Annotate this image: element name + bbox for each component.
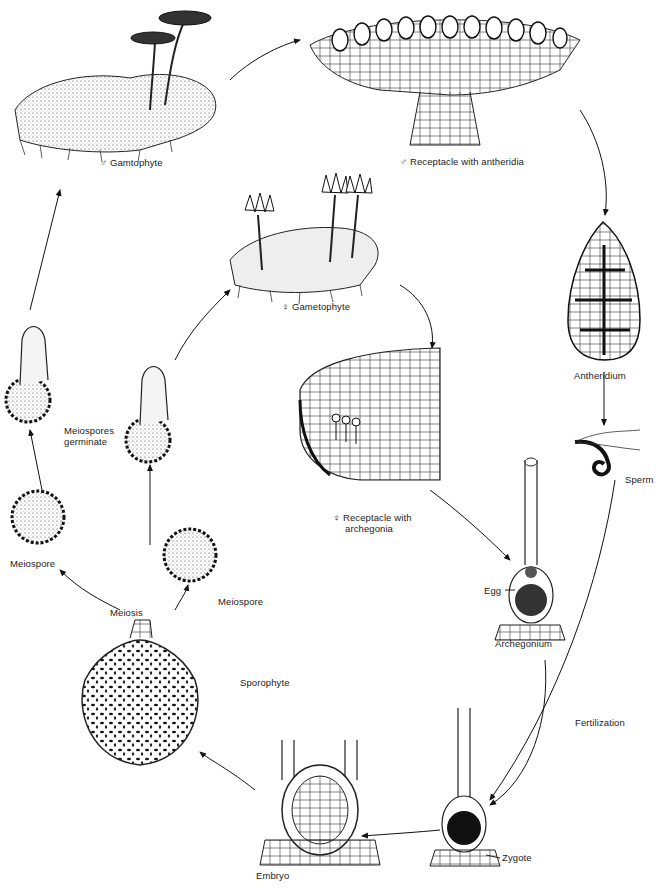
label-zygote: Zygote — [502, 852, 532, 863]
label-female-gametophyte: ♀ Gametophyte — [282, 301, 350, 312]
sporophyte-illustration — [82, 620, 198, 765]
label-female-receptacle-line1: ♀ Receptacle with — [333, 512, 412, 523]
meiospore-right-illustration — [164, 529, 216, 581]
sperm-illustration — [575, 430, 640, 474]
label-meiosis: Meiosis — [110, 607, 143, 618]
label-meiospores-germinate-line1: Meiospores — [64, 425, 114, 436]
label-archegonium: Archegonium — [495, 638, 552, 649]
label-male-gametophyte: ♂ Gamtophyte — [100, 157, 163, 168]
label-meiospore-left: Meiospore — [10, 558, 55, 569]
female-receptacle-illustration — [300, 348, 440, 480]
label-fertilization: Fertilization — [575, 717, 625, 728]
label-meiospore-right: Meiospore — [218, 596, 263, 607]
male-receptacle-illustration — [310, 16, 580, 145]
male-gametophyte-illustration — [15, 11, 216, 162]
archegonium-illustration — [495, 458, 565, 640]
label-female-receptacle-line2: archegonia — [345, 523, 393, 534]
meiospore-left-illustration — [12, 491, 64, 543]
label-egg: Egg — [484, 585, 501, 596]
label-embryo: Embryo — [256, 870, 289, 881]
embryo-illustration — [260, 740, 380, 865]
label-meiospores-germinate-line2: germinate — [64, 436, 107, 447]
life-cycle-diagram: ♂ Gamtophyte ♂ Receptacle with antheridi… — [0, 0, 670, 888]
label-male-receptacle: ♂ Receptacle with antheridia — [400, 156, 524, 167]
germinating-meiospore-left — [6, 327, 50, 423]
germinating-meiospore-right — [126, 367, 170, 463]
antheridium-illustration — [568, 222, 640, 360]
female-gametophyte-illustration — [230, 173, 378, 304]
label-sporophyte: Sporophyte — [240, 677, 290, 688]
zygote-illustration — [430, 708, 500, 866]
label-sperm: Sperm — [625, 474, 653, 485]
label-antheridium: Antheridium — [574, 370, 626, 381]
